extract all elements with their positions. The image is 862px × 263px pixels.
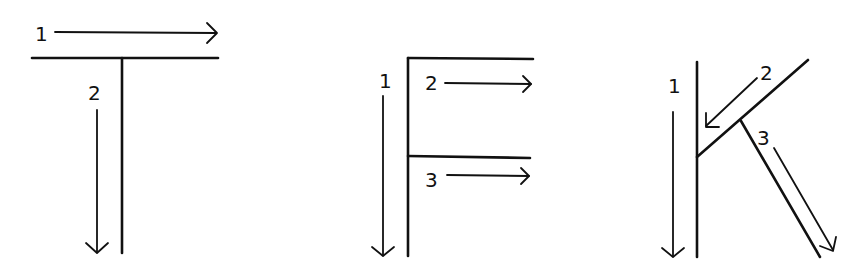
t-stroke-1-arrow-icon (55, 23, 217, 43)
k-stroke-1-arrow-icon (662, 112, 684, 257)
k-stroke-3-label: 3 (757, 126, 770, 150)
t-stroke-1-label: 1 (35, 22, 48, 46)
letter-f: 1 2 3 (372, 58, 533, 256)
k-stroke-2-label: 2 (760, 61, 773, 85)
f-middle-bar (408, 156, 530, 158)
f-stroke-3-label: 3 (425, 168, 438, 192)
f-stroke-2-label: 2 (425, 71, 438, 95)
f-stroke-1-arrow-icon (372, 96, 394, 256)
letter-k: 1 2 3 (662, 60, 836, 257)
f-top-bar (408, 58, 533, 59)
letter-t: 1 2 (32, 22, 218, 253)
k-stroke-1-label: 1 (668, 74, 681, 98)
t-stroke-2-label: 2 (88, 81, 101, 105)
k-stroke-2-arrow-icon (706, 78, 757, 127)
f-stroke-3-arrow-icon (447, 168, 529, 184)
k-lower-diagonal (741, 121, 820, 257)
t-stroke-2-arrow-icon (86, 110, 108, 253)
stroke-order-diagram: 1 2 1 2 3 (0, 0, 862, 263)
f-stroke-1-label: 1 (379, 69, 392, 93)
f-stroke-2-arrow-icon (445, 76, 531, 92)
k-stroke-3-arrow-icon (774, 148, 836, 251)
